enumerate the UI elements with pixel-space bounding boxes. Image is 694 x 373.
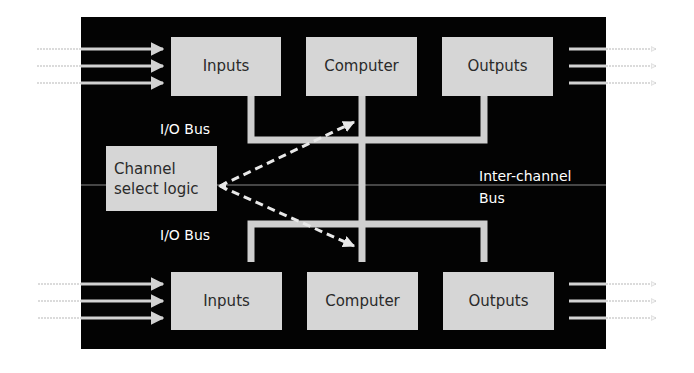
channel-select-line2: select logic — [114, 179, 217, 199]
io-bus-top-label: I/O Bus — [160, 120, 210, 138]
inputs-top-label: Inputs — [171, 37, 281, 96]
inter-channel-bus-label: Inter-channel Bus — [479, 165, 571, 209]
channel-select-label: Channel select logic — [114, 159, 217, 199]
io-bus-bottom-label: I/O Bus — [160, 226, 210, 244]
inter-channel-line2: Bus — [479, 187, 571, 209]
outputs-top-label: Outputs — [442, 37, 553, 96]
computer-bottom-label: Computer — [307, 272, 418, 330]
computer-top-label: Computer — [306, 37, 417, 96]
channel-select-line1: Channel — [114, 159, 217, 179]
inter-channel-line1: Inter-channel — [479, 165, 571, 187]
outputs-bottom-label: Outputs — [443, 272, 554, 330]
inputs-bottom-label: Inputs — [171, 272, 282, 330]
